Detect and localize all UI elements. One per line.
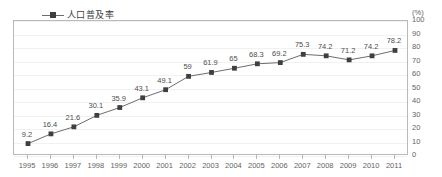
y-axis-tick-label: 50 <box>412 84 420 92</box>
data-point-marker <box>393 48 398 53</box>
data-label: 59 <box>183 62 191 71</box>
x-axis-tick-label: 1997 <box>65 161 82 170</box>
data-point-marker <box>26 141 31 146</box>
x-axis-tick-label: 2002 <box>179 161 196 170</box>
data-label: 30.1 <box>89 101 104 110</box>
x-axis-tick <box>96 155 97 159</box>
data-label: 71.2 <box>341 46 356 55</box>
data-point-marker <box>370 53 375 58</box>
x-axis-tick <box>165 155 166 159</box>
data-label: 74.2 <box>364 42 379 51</box>
x-axis-tick <box>211 155 212 159</box>
x-axis-tick <box>188 155 189 159</box>
data-label: 68.3 <box>249 50 264 59</box>
data-point-marker <box>140 95 145 100</box>
y-axis-tick-label: 20 <box>412 124 420 132</box>
y-axis-tick-label: 80 <box>412 43 420 51</box>
x-axis-tick <box>142 155 143 159</box>
y-axis-tick-label: 40 <box>412 97 420 105</box>
x-axis-tick-label: 1996 <box>42 161 59 170</box>
series-line-population-penetration-rate <box>14 21 409 156</box>
x-axis-tick-label: 2005 <box>248 161 265 170</box>
x-axis-tick-label: 2003 <box>202 161 219 170</box>
data-label: 16.4 <box>43 120 58 129</box>
data-label: 75.3 <box>295 40 310 49</box>
x-axis-tick-label: 2006 <box>271 161 288 170</box>
y-axis-tick-label: 0 <box>412 151 416 159</box>
data-point-marker <box>163 87 168 92</box>
x-axis: 1995199619971998199920002001200220032004… <box>13 155 408 177</box>
x-axis-tick-label: 1995 <box>19 161 36 170</box>
x-axis-tick <box>27 155 28 159</box>
x-axis-tick-label: 1998 <box>87 161 104 170</box>
data-point-marker <box>186 74 191 79</box>
x-axis-tick-label: 2011 <box>386 161 402 170</box>
data-label: 78.2 <box>387 36 402 45</box>
data-point-marker <box>301 52 306 57</box>
data-point-marker <box>209 70 214 75</box>
y-axis-tick-label: 70 <box>412 57 420 65</box>
x-axis-tick-label: 2007 <box>294 161 311 170</box>
data-point-marker <box>347 57 352 62</box>
data-point-marker <box>324 53 329 58</box>
data-label: 74.2 <box>318 42 333 51</box>
data-point-marker <box>255 61 260 66</box>
data-point-marker <box>49 131 54 136</box>
data-label: 21.6 <box>66 113 81 122</box>
x-axis-tick <box>233 155 234 159</box>
x-axis-tick <box>73 155 74 159</box>
x-axis-tick <box>279 155 280 159</box>
data-point-marker <box>94 113 99 118</box>
y-axis-tick-label: 30 <box>412 111 420 119</box>
x-axis-tick-label: 1999 <box>110 161 127 170</box>
data-label: 69.2 <box>272 49 287 58</box>
y-axis-tick-label: 10 <box>412 138 420 146</box>
data-point-marker <box>117 105 122 110</box>
x-axis-tick-label: 2009 <box>340 161 357 170</box>
x-axis-tick <box>302 155 303 159</box>
x-axis-tick-label: 2000 <box>133 161 150 170</box>
x-axis-tick-label: 2004 <box>225 161 242 170</box>
y-axis-tick-label: 60 <box>412 70 420 78</box>
x-axis-tick <box>371 155 372 159</box>
data-label: 9.2 <box>22 130 32 139</box>
data-point-marker <box>278 60 283 65</box>
y-axis-tick-label: 100 <box>412 16 425 24</box>
chart-container: 人口普及率 (%) 9.216.421.630.135.943.149.1596… <box>0 0 442 177</box>
plot-area <box>13 20 408 155</box>
data-label: 65 <box>229 54 237 63</box>
x-axis-tick-label: 2001 <box>156 161 173 170</box>
data-label: 43.1 <box>134 84 149 93</box>
x-axis-tick <box>325 155 326 159</box>
x-axis-tick-label: 2008 <box>317 161 334 170</box>
x-axis-tick <box>256 155 257 159</box>
data-label: 61.9 <box>203 58 218 67</box>
x-axis-tick-label: 2010 <box>363 161 380 170</box>
data-label: 49.1 <box>157 76 172 85</box>
data-point-marker <box>232 66 237 71</box>
data-label: 35.9 <box>111 94 126 103</box>
data-point-marker <box>71 124 76 129</box>
x-axis-tick <box>348 155 349 159</box>
x-axis-tick <box>50 155 51 159</box>
x-axis-tick <box>394 155 395 159</box>
y-axis: 1009080706050403020100 <box>410 20 440 155</box>
x-axis-tick <box>119 155 120 159</box>
y-axis-tick-label: 90 <box>412 30 420 38</box>
